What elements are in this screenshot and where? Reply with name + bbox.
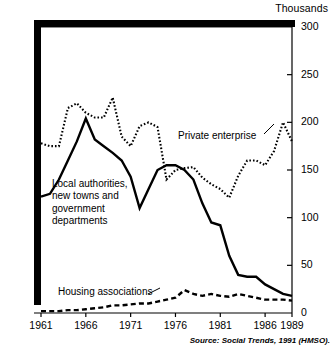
y-axis-label-150: 150 xyxy=(301,163,319,175)
plot-area xyxy=(0,0,334,349)
x-axis-label-1986: 1986 xyxy=(253,319,276,331)
x-axis-label-1976: 1976 xyxy=(164,319,187,331)
x-axis-label-1971: 1971 xyxy=(119,319,142,331)
x-axis-label-1961: 1961 xyxy=(29,319,52,331)
leader-private-enterprise xyxy=(264,124,274,134)
axes-group xyxy=(34,20,295,317)
local-authorities-label-line-3: government xyxy=(52,203,128,215)
y-axis-label-200: 200 xyxy=(301,115,319,127)
left-border-bar xyxy=(34,20,41,305)
x-axis-label-1966: 1966 xyxy=(74,319,97,331)
series-annotation-local-authorities: Local authorities, new towns and governm… xyxy=(52,178,128,228)
local-authorities-label-line-2: new towns and xyxy=(52,190,128,202)
y-axis-label-100: 100 xyxy=(301,211,319,223)
local-authorities-label-line-4: departments xyxy=(52,215,128,227)
x-axis-label-1989: 1989 xyxy=(280,319,303,331)
chart-svg xyxy=(0,0,334,349)
y-axis-label-50: 50 xyxy=(301,258,313,270)
top-border-bar xyxy=(34,20,295,27)
series-annotation-private-enterprise: Private enterprise xyxy=(178,130,256,142)
local-authorities-label-line-1: Local authorities, xyxy=(52,178,128,190)
leader-lines-group xyxy=(148,124,274,294)
chart-figure: Thousands 050100150200250300 19611966197… xyxy=(0,0,334,349)
source-note: Source: Social Trends, 1991 (HMSO). xyxy=(190,336,330,345)
series-annotation-housing-associations: Housing associations xyxy=(58,286,153,298)
y-axis-label-300: 300 xyxy=(301,20,319,32)
y-axis-label-250: 250 xyxy=(301,68,319,80)
y-axis-label-0: 0 xyxy=(301,306,307,318)
x-axis-label-1981: 1981 xyxy=(209,319,232,331)
